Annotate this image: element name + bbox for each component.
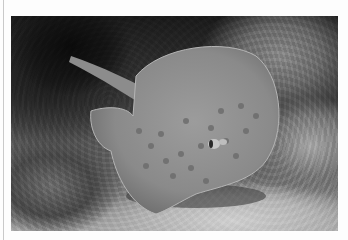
page-edge-rule: [3, 0, 4, 240]
stingray-photo: [11, 16, 338, 231]
stingray-illustration: [11, 16, 338, 231]
